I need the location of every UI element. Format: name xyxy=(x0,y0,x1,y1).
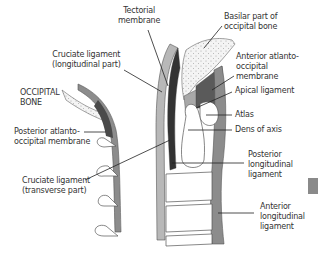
label-occipital-bone: OCCIPITAL BONE xyxy=(20,88,59,108)
label-cruciate-transverse: Cruciate ligament (transverse part) xyxy=(22,176,90,196)
label-basilar-part: Basilar part of occipital bone xyxy=(224,12,277,32)
label-anterior-longitudinal: Anterior longitudinal ligament xyxy=(260,202,305,232)
vertebral-bodies xyxy=(166,172,212,246)
label-anterior-atlanto-occipital: Anterior atlanto- occipital membrane xyxy=(236,52,299,82)
label-posterior-atlanto-occipital: Posterior atlanto- occipital membrane xyxy=(14,127,90,147)
side-tab-marker xyxy=(308,178,318,194)
label-dens-of-axis: Dens of axis xyxy=(235,125,282,135)
label-apical-ligament: Apical ligament xyxy=(235,86,294,96)
label-posterior-longitudinal: Posterior longitudinal ligament xyxy=(248,150,293,180)
occipital-bone-shape xyxy=(62,84,121,232)
label-tectorial-membrane: Tectorial membrane xyxy=(118,6,160,26)
label-atlas: Atlas xyxy=(235,110,254,120)
label-cruciate-longitudinal: Cruciate ligament (longitudinal part) xyxy=(52,50,121,70)
